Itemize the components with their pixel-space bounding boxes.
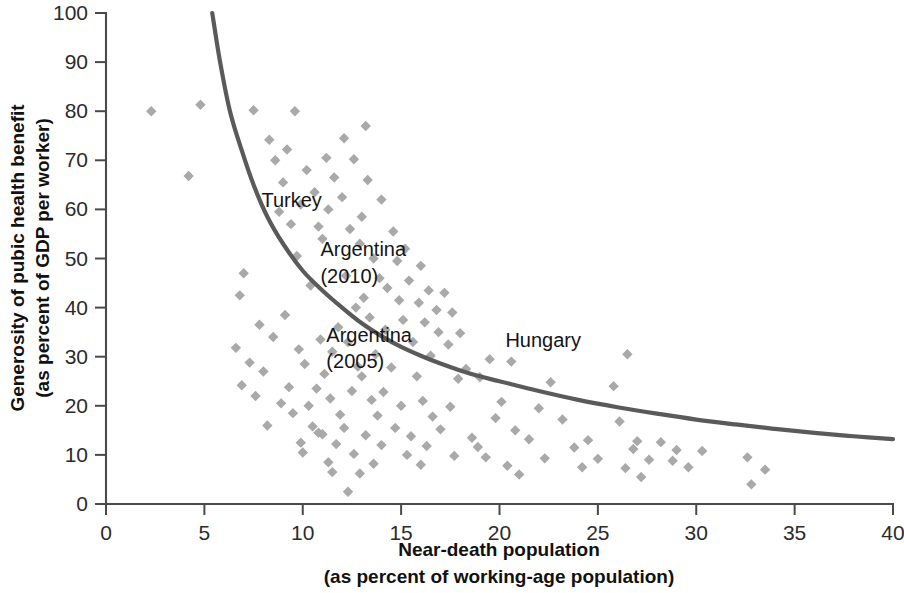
data-point bbox=[355, 468, 365, 478]
data-point bbox=[323, 204, 333, 214]
annotation-label-argentina: Argentina bbox=[326, 324, 412, 346]
data-point bbox=[506, 356, 516, 366]
data-point bbox=[298, 447, 308, 457]
data-point bbox=[427, 411, 437, 421]
y-tick-label: 90 bbox=[65, 50, 88, 73]
y-tick-label: 30 bbox=[65, 345, 88, 368]
data-point bbox=[614, 416, 624, 426]
data-point bbox=[390, 423, 400, 433]
x-tick-label: 40 bbox=[881, 521, 904, 544]
data-point bbox=[433, 327, 443, 337]
data-point bbox=[347, 386, 357, 396]
data-point bbox=[746, 479, 756, 489]
data-point bbox=[339, 423, 349, 433]
y-axis-ticks: 0102030405060708090100 bbox=[53, 1, 106, 515]
data-point bbox=[473, 442, 483, 452]
data-point bbox=[396, 401, 406, 411]
data-point bbox=[311, 383, 321, 393]
annotation-label-2010: (2010) bbox=[320, 265, 378, 287]
data-point bbox=[742, 452, 752, 462]
annotation-label-2005: (2005) bbox=[326, 350, 384, 372]
data-point bbox=[231, 343, 241, 353]
y-tick-label: 0 bbox=[76, 492, 88, 515]
y-tick-label: 20 bbox=[65, 394, 88, 417]
data-point bbox=[416, 261, 426, 271]
x-axis-title: Near-death population bbox=[398, 539, 600, 560]
data-point bbox=[183, 171, 193, 181]
data-point bbox=[656, 437, 666, 447]
data-point bbox=[349, 449, 359, 459]
y-tick-label: 40 bbox=[65, 296, 88, 319]
annotation-label-hungary: Hungary bbox=[505, 329, 581, 351]
data-point bbox=[359, 293, 369, 303]
data-point bbox=[195, 100, 205, 110]
chart-figure: 0102030405060708090100 0510152025303540 … bbox=[0, 0, 904, 593]
data-point bbox=[321, 153, 331, 163]
data-point bbox=[418, 396, 428, 406]
y-axis-title: Generosity of pubic health benefit bbox=[7, 104, 28, 412]
data-point bbox=[368, 459, 378, 469]
data-point bbox=[296, 437, 306, 447]
data-point bbox=[244, 357, 254, 367]
y-tick-label: 100 bbox=[53, 1, 88, 24]
x-tick-label: 35 bbox=[783, 521, 806, 544]
data-point bbox=[445, 402, 455, 412]
data-point bbox=[423, 285, 433, 295]
data-point bbox=[339, 133, 349, 143]
y-tick-label: 10 bbox=[65, 443, 88, 466]
data-point bbox=[250, 391, 260, 401]
data-point bbox=[364, 312, 374, 322]
data-point bbox=[278, 177, 288, 187]
data-points-layer bbox=[146, 100, 770, 497]
data-point bbox=[349, 154, 359, 164]
data-point bbox=[443, 339, 453, 349]
data-point bbox=[583, 435, 593, 445]
data-point bbox=[237, 380, 247, 390]
y-tick-label: 70 bbox=[65, 148, 88, 171]
data-point bbox=[412, 371, 422, 381]
data-point bbox=[449, 451, 459, 461]
scatter-plot-svg: 0102030405060708090100 0510152025303540 … bbox=[0, 0, 904, 593]
data-point bbox=[382, 283, 392, 293]
data-point bbox=[335, 409, 345, 419]
data-point bbox=[644, 455, 654, 465]
data-point bbox=[481, 452, 491, 462]
data-point bbox=[264, 134, 274, 144]
data-point bbox=[557, 414, 567, 424]
data-point bbox=[362, 175, 372, 185]
data-point bbox=[510, 425, 520, 435]
data-point bbox=[286, 219, 296, 229]
data-point bbox=[683, 462, 693, 472]
data-point bbox=[331, 439, 341, 449]
data-point bbox=[327, 467, 337, 477]
data-point bbox=[372, 410, 382, 420]
data-point bbox=[337, 192, 347, 202]
data-point bbox=[467, 433, 477, 443]
data-point bbox=[294, 344, 304, 354]
data-point bbox=[622, 349, 632, 359]
data-point bbox=[577, 462, 587, 472]
y-tick-label: 50 bbox=[65, 247, 88, 270]
data-point bbox=[636, 472, 646, 482]
data-point bbox=[366, 395, 376, 405]
data-point bbox=[376, 194, 386, 204]
data-point bbox=[514, 469, 524, 479]
data-point bbox=[239, 268, 249, 278]
data-point bbox=[300, 359, 310, 369]
data-point bbox=[406, 431, 416, 441]
data-point bbox=[455, 328, 465, 338]
data-point bbox=[357, 371, 367, 381]
data-point bbox=[361, 430, 371, 440]
data-point bbox=[608, 381, 618, 391]
data-point bbox=[303, 401, 313, 411]
data-point bbox=[268, 332, 278, 342]
x-tick-label: 10 bbox=[291, 521, 314, 544]
y-axis-subtitle: (as percent of GDP per worker) bbox=[32, 118, 53, 397]
data-point bbox=[667, 456, 677, 466]
data-point bbox=[146, 106, 156, 116]
data-point bbox=[414, 297, 424, 307]
data-point bbox=[453, 374, 463, 384]
data-point bbox=[376, 440, 386, 450]
data-point bbox=[697, 446, 707, 456]
data-point bbox=[329, 172, 339, 182]
